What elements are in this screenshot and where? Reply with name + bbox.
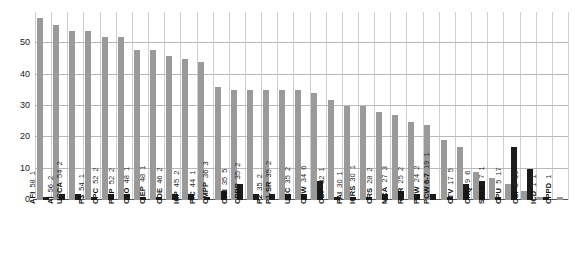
x-tick-label: 144PIC: [189, 171, 198, 204]
x-tick-label-cell: 256AI: [51, 202, 67, 278]
x-tick-label-cell: 224PCW: [422, 202, 438, 278]
x-tick-label: 235UCC: [284, 167, 293, 204]
x-label-value-1: 35: [265, 169, 274, 177]
x-tick-label-cell: 158AFI: [35, 202, 51, 278]
x-tick-label: 235P1-SR: [265, 161, 274, 204]
x-tick-label: 235P2: [255, 174, 264, 204]
x-label-value-2: 1: [138, 166, 147, 170]
x-label-value-1: 35: [220, 177, 229, 185]
bar-series-1: [166, 56, 172, 200]
x-tick-label: 130ICRS: [347, 165, 356, 204]
x-label-category: RCR: [397, 187, 406, 204]
x-label-category: P3: [78, 195, 87, 204]
x-label-value-1: 3: [512, 183, 521, 187]
x-label-value-1: 7: [477, 175, 486, 179]
x-tick-label-cell: 254UCCA: [67, 202, 83, 278]
x-tick-label-cell: 336CMPP: [213, 202, 229, 278]
x-tick-label: 148CIEP: [138, 166, 147, 204]
x-label-value-1: 52: [90, 176, 99, 184]
x-tick-label: 246CDE: [155, 167, 164, 204]
x-label-value-2: 2: [90, 167, 99, 171]
x-label-category: PIC: [189, 191, 198, 204]
x-tick-label-cell: 535CWI: [229, 202, 245, 278]
x-tick-label: 148CEO: [122, 167, 131, 204]
x-label-value-2: 2: [412, 166, 421, 170]
x-label-category: CDE: [155, 188, 164, 204]
bar-group: [35, 12, 51, 200]
bar-group: [67, 12, 83, 200]
bar-group: [519, 12, 535, 200]
x-label-value-2: 2: [365, 167, 374, 171]
x-label-value-1: 30: [347, 173, 356, 181]
x-label-value-1: 17: [446, 176, 455, 184]
x-label-value-2: 1: [189, 171, 198, 175]
x-label-category: CIEP: [138, 186, 147, 204]
x-tick-label: 17SPHC: [477, 166, 486, 204]
x-tick-label-cell: 235P2: [261, 202, 277, 278]
x-tick-label: 103CSI: [512, 171, 521, 204]
x-label-category: CPU: [494, 188, 503, 204]
bar-series-1: [247, 90, 253, 200]
x-label-value-2: 5: [446, 168, 455, 172]
bar-group: [552, 12, 568, 200]
x-label-category: CMPP: [200, 182, 209, 204]
x-label-value-1: 19: [422, 161, 431, 169]
x-label-value-1: 54: [78, 182, 87, 190]
x-tick-label-cell: 175CPU: [503, 202, 519, 278]
x-label-value-2: 3: [200, 161, 209, 165]
x-label-category: CEO: [122, 187, 131, 204]
x-tick-label-cell: 148CIEP: [148, 202, 164, 278]
bar-series-2: [430, 194, 436, 200]
x-label-value-1: 1: [544, 175, 553, 179]
x-label-value-2: 1: [530, 174, 539, 178]
x-label-value-2: 1: [316, 167, 325, 171]
x-tick-label-cell: 246CDE: [164, 202, 180, 278]
x-label-value-1: 48: [122, 175, 131, 183]
x-label-category: PAI: [334, 192, 343, 204]
x-label-category: UCC: [284, 187, 293, 204]
x-label-value-1: 28: [365, 176, 374, 184]
x-label-category: CRS: [365, 188, 374, 204]
x-label-category: PCW: [412, 186, 421, 204]
x-tick-label-cell: 11ICD: [535, 202, 551, 278]
x-tick-label: 517CTV: [446, 168, 455, 204]
x-label-value-1: 46: [155, 176, 164, 184]
x-label-value-1: 52: [107, 176, 116, 184]
x-tick-label: 336CMPP: [200, 161, 209, 204]
x-label-value-1: 1: [530, 183, 539, 187]
x-label-value-1: 30: [334, 179, 343, 187]
x-label-category: CSI: [512, 191, 521, 204]
x-label-category: AFI: [28, 192, 37, 204]
x-label-value-2: 2: [284, 167, 293, 171]
x-tick-label: 119PCW 6-7: [422, 152, 431, 204]
bar-series-1: [328, 100, 334, 200]
x-label-value-2: 2: [233, 163, 242, 167]
x-tick-label-cell: 1CPPD: [552, 202, 568, 278]
x-tick-label: 224PCW: [412, 166, 421, 204]
x-tick-label-cell: 634CPW: [309, 202, 325, 278]
x-tick-label-cell: 235P1-SR: [277, 202, 293, 278]
x-tick-label-cell: 235CPPP: [245, 202, 261, 278]
x-tick-label-cell: 144PIC: [196, 202, 212, 278]
x-tick-label-cell: 517CTV: [455, 202, 471, 278]
x-tick-label: 228CRS: [365, 167, 374, 204]
bar-series-1: [557, 197, 563, 200]
x-tick-label-cell: 69CRQ: [471, 202, 487, 278]
x-tick-label-cell: 245ICP: [180, 202, 196, 278]
x-tick-label: 158AFI: [28, 171, 37, 204]
x-label-value-2: 2: [107, 168, 116, 172]
x-label-value-1: 54: [55, 170, 64, 178]
x-label-value-2: 2: [265, 161, 274, 165]
x-label-value-1: 35: [284, 175, 293, 183]
x-tick-label: 254UCCA: [55, 161, 64, 204]
x-tick-label-cell: 132CDP: [326, 202, 342, 278]
x-label-value-2: 2: [397, 167, 406, 171]
y-tick-label: 50: [20, 38, 30, 47]
y-tick-label: 40: [20, 69, 30, 78]
x-tick-label-cell: 103CSI: [519, 202, 535, 278]
x-label-value-2: 2: [55, 161, 64, 165]
category-gridline: [568, 12, 569, 200]
x-tick-label: 252PCP: [107, 168, 116, 204]
x-tick-label: 327MCA: [380, 166, 389, 204]
x-tick-label: 130PAI: [334, 171, 343, 204]
